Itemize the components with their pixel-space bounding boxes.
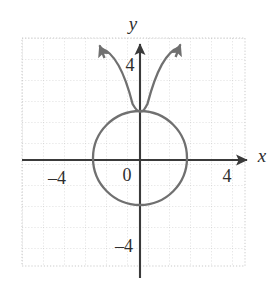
x-axis-label: x	[257, 145, 267, 166]
tick-label-y-positive-4: 4	[126, 55, 135, 75]
y-axis-label: y	[127, 13, 138, 34]
coordinate-plane-graph: y x 4 –4 –4 4 0	[0, 0, 277, 283]
tick-label-x-positive-4: 4	[223, 166, 232, 186]
tick-label-y-negative-4: –4	[114, 236, 133, 256]
tick-label-origin: 0	[123, 165, 132, 185]
figure-canvas: y x 4 –4 –4 4 0	[0, 0, 277, 283]
tick-label-x-negative-4: –4	[47, 168, 66, 188]
